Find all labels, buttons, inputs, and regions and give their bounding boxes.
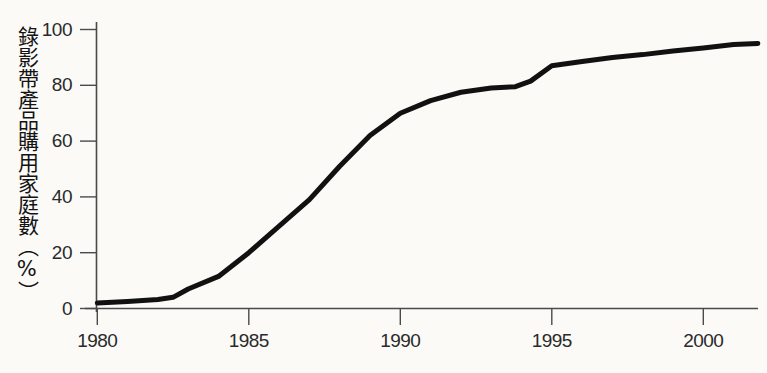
y-tick-label-80: 80 [26, 74, 72, 96]
plot-area [0, 0, 767, 373]
x-tick-label-1980: 1980 [65, 330, 129, 352]
y-tick-label-0: 0 [26, 298, 72, 320]
y-tick-label-60: 60 [26, 130, 72, 152]
chart-container: 錄影帶產品購用家庭數（%） 100 80 60 40 20 0 [0, 0, 767, 373]
y-axis-ticks [80, 30, 97, 309]
y-tick-label-40: 40 [26, 186, 72, 208]
y-tick-label-100: 100 [26, 19, 72, 41]
x-tick-label-1995: 1995 [520, 330, 584, 352]
y-tick-label-20: 20 [26, 242, 72, 264]
x-axis-ticks [97, 309, 703, 326]
data-series-line [97, 43, 758, 302]
x-tick-label-2000: 2000 [671, 330, 735, 352]
x-tick-label-1985: 1985 [217, 330, 281, 352]
x-tick-label-1990: 1990 [368, 330, 432, 352]
